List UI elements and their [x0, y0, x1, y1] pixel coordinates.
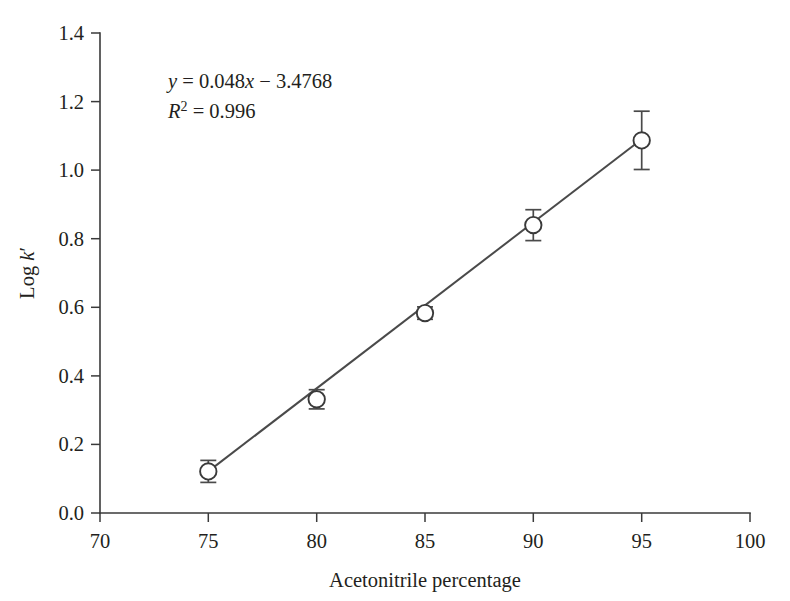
y-tick-label: 0.6 — [58, 296, 84, 318]
r-squared-eq: = — [188, 100, 210, 122]
y-tick-label: 0.8 — [58, 228, 84, 250]
y-axis-title-prefix: Log — [16, 261, 39, 299]
y-tick-label: 0.0 — [58, 502, 84, 524]
data-marker — [525, 217, 541, 233]
equation-intercept: − 3.4768 — [254, 70, 332, 92]
y-tick-label: 1.0 — [58, 159, 84, 181]
y-tick-label: 1.4 — [58, 22, 84, 44]
x-tick-label: 80 — [306, 530, 327, 552]
y-tick-label: 1.2 — [58, 91, 84, 113]
y-axis-title: Log k′ — [16, 247, 39, 299]
equation-variable: x — [244, 70, 254, 92]
data-marker — [309, 391, 325, 407]
plot-background — [0, 0, 790, 601]
r-squared-symbol: R — [167, 100, 181, 122]
x-tick-label: 85 — [415, 530, 436, 552]
x-tick-label: 95 — [631, 530, 652, 552]
equation-slope: 0.048 — [199, 70, 245, 92]
y-tick-label: 0.4 — [58, 365, 84, 387]
x-tick-label: 75 — [198, 530, 219, 552]
fit-equation-annotation: y = 0.048x − 3.4768 — [166, 70, 332, 93]
x-tick-label: 70 — [90, 530, 111, 552]
data-marker — [417, 305, 433, 321]
y-tick-label: 0.2 — [58, 433, 84, 455]
y-axis-title-prime: ′ — [16, 247, 38, 251]
data-point — [309, 390, 325, 409]
data-marker — [634, 132, 650, 148]
x-tick-label: 100 — [735, 530, 766, 552]
equation-eq: = — [177, 70, 199, 92]
r-squared-value: 0.996 — [209, 100, 255, 122]
x-axis-title: Acetonitrile percentage — [329, 569, 521, 592]
svg-text:Log k′: Log k′ — [16, 247, 39, 299]
r-squared-superscript: 2 — [181, 99, 188, 114]
x-tick-label: 90 — [523, 530, 544, 552]
data-point — [417, 305, 433, 321]
scatter-plot-canvas: 0.0 0.2 0.4 0.6 0.8 1.0 1.2 1.4 70 75 80… — [0, 0, 790, 601]
data-marker — [200, 463, 216, 479]
chart-figure: 0.0 0.2 0.4 0.6 0.8 1.0 1.2 1.4 70 75 80… — [0, 0, 790, 601]
r-squared-annotation: R2 = 0.996 — [167, 99, 255, 122]
